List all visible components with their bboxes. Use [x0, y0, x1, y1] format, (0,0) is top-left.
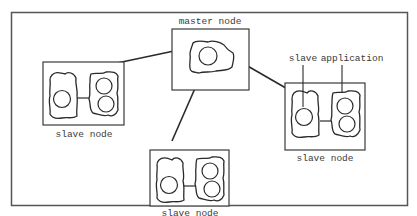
process-circle	[96, 78, 112, 94]
slave-node-label: slave node	[296, 153, 353, 164]
process-circle	[98, 96, 114, 112]
master-node-label: master node	[179, 16, 242, 27]
architecture-diagram: master node slave node slave node slave …	[0, 0, 417, 216]
process-circle	[54, 91, 71, 108]
annotation-label-application: application	[321, 53, 384, 64]
process-circle	[339, 116, 355, 132]
slave-node-bottom: slave node	[150, 150, 229, 216]
slave-node-label: slave node	[161, 208, 218, 216]
slave-node-right: slave node	[285, 83, 365, 164]
process-circle	[296, 109, 313, 126]
slave-node-label: slave node	[55, 129, 112, 140]
process-circle	[202, 163, 218, 179]
process-circle	[161, 177, 178, 194]
slave-node-left: slave node	[43, 62, 124, 140]
master-node: master node	[172, 16, 249, 90]
annotation-label-slave: slave	[289, 53, 318, 64]
process-circle	[337, 98, 353, 114]
process-circle	[204, 181, 220, 197]
process-circle	[199, 47, 217, 65]
